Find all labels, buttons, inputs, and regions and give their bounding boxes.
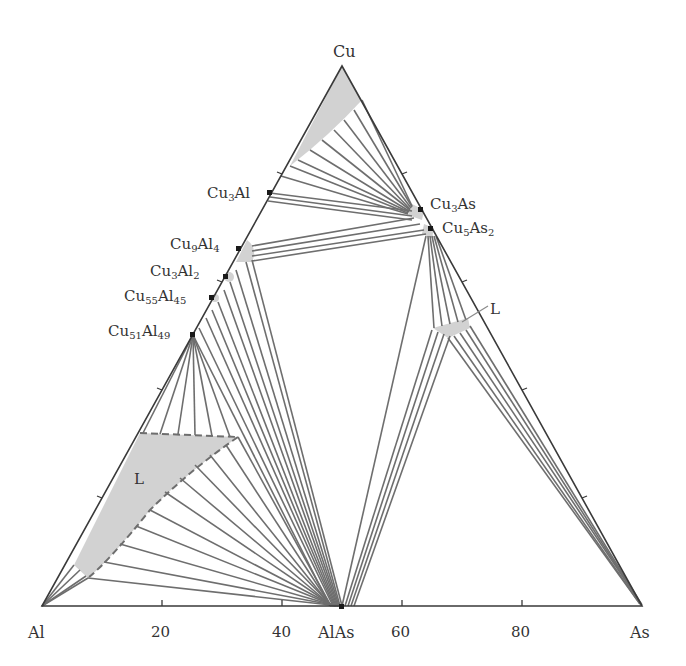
subscript: 55 [145, 295, 158, 306]
marker-alas [339, 604, 344, 609]
element: Al [198, 235, 214, 253]
element: Al [158, 287, 174, 305]
element: As [470, 219, 489, 237]
subscript: 4 [213, 243, 219, 254]
vertex-label-al: Al [28, 625, 45, 641]
element: Cu [170, 235, 191, 253]
marker-cu9al4 [236, 246, 241, 251]
element: Al [178, 262, 194, 280]
phase-regions [74, 66, 470, 578]
liquid-label-left: L [134, 472, 144, 487]
compound-label-alas: AlAs [318, 625, 354, 641]
marker-cu3al [267, 190, 272, 195]
tick-label-20: 20 [151, 625, 170, 640]
tick-label-80: 80 [511, 625, 530, 640]
vertex-label-as: As [630, 625, 650, 641]
subscript: 51 [129, 330, 142, 341]
phase-label-cu5as2: Cu5As2 [442, 221, 494, 238]
marker-cu3as [418, 207, 423, 212]
phase-label-cu55al45: Cu55Al45 [124, 289, 186, 306]
element: Al [142, 322, 158, 340]
phase-label-cu3al2: Cu3Al2 [150, 264, 200, 281]
element: Cu [124, 287, 145, 305]
tick-label-60: 60 [391, 625, 410, 640]
phase-label-cu9al4: Cu9Al4 [170, 237, 220, 254]
element: Al [235, 184, 251, 202]
marker-cu55al45 [209, 295, 214, 300]
tick-label-40: 40 [272, 625, 291, 640]
phase-label-cu51al49: Cu51Al49 [108, 324, 170, 341]
element: As [458, 195, 477, 213]
liquid-leader-line [462, 306, 488, 322]
subscript: 2 [193, 270, 199, 281]
element: Cu [430, 195, 451, 213]
subscript: 45 [174, 295, 187, 306]
ternary-phase-diagram [0, 0, 686, 666]
subscript: 2 [488, 227, 494, 238]
element: Cu [442, 219, 463, 237]
marker-cu51al49 [190, 332, 195, 337]
subscript: 49 [158, 330, 171, 341]
element: Cu [150, 262, 171, 280]
marker-cu3al2 [223, 274, 228, 279]
phase-label-cu3al: Cu3Al [207, 186, 250, 203]
element: Cu [108, 322, 129, 340]
phase-label-cu3as: Cu3As [430, 197, 476, 214]
liquid-label-right: L [490, 302, 500, 317]
marker-cu5as2 [428, 226, 433, 231]
vertex-label-cu: Cu [333, 44, 356, 60]
element: Cu [207, 184, 228, 202]
